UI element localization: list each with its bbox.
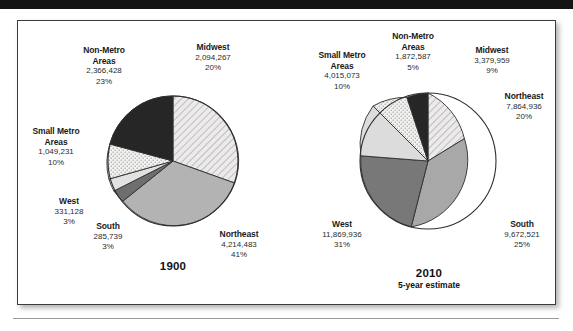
label-name-line1: Non-Metro (59, 45, 149, 56)
label-value: 2,094,267 (168, 53, 258, 64)
label-percent: 20% (168, 63, 258, 74)
label-name: Northeast (194, 229, 284, 240)
label-name-line1: Non-Metro (373, 31, 453, 42)
caption-year: 2010 (383, 267, 475, 279)
label-name-line2: Areas (298, 61, 386, 72)
label-value: 7,864,936 (480, 102, 568, 113)
label-value: 285,739 (68, 232, 148, 243)
label-1900-northeast: Northeast 4,214,483 41% (194, 229, 284, 261)
label-name: Midwest (448, 45, 536, 56)
label-2010-west: West 11,869,936 31% (296, 219, 388, 251)
caption-1900: 1900 (128, 260, 218, 272)
label-name: Northeast (480, 91, 568, 102)
label-value: 4,015,073 (298, 71, 386, 82)
label-1900-small-metro: Small Metro Areas 1,049,231 10% (11, 126, 101, 168)
pie-2010 (360, 93, 496, 229)
label-percent: 9% (448, 66, 536, 77)
label-percent: 31% (296, 240, 388, 251)
label-name: West (29, 196, 109, 207)
label-1900-midwest: Midwest 2,094,267 20% (168, 42, 258, 74)
label-percent: 10% (298, 82, 386, 93)
pie-1900 (107, 96, 239, 226)
label-value: 11,869,936 (296, 230, 388, 241)
label-percent: 3% (68, 242, 148, 253)
label-value: 3,379,959 (448, 56, 536, 67)
page-top-black-bar (0, 0, 573, 9)
label-value: 9,672,521 (478, 230, 566, 241)
label-name: South (68, 221, 148, 232)
label-name: Midwest (168, 42, 258, 53)
label-name: West (296, 219, 388, 230)
page-bottom-rule (13, 318, 559, 319)
label-name: South (478, 219, 566, 230)
figure-container: Midwest 2,094,267 20% Non-Metro Areas 2,… (17, 20, 556, 305)
label-percent: 10% (11, 158, 101, 169)
label-percent: 25% (478, 240, 566, 251)
label-name-line2: Areas (59, 56, 149, 67)
label-1900-south: South 285,739 3% (68, 221, 148, 253)
label-name-line1: Small Metro (11, 126, 101, 137)
label-2010-small-metro: Small Metro Areas 4,015,073 10% (298, 50, 386, 92)
label-2010-south: South 9,672,521 25% (478, 219, 566, 251)
label-percent: 41% (194, 250, 284, 261)
caption-2010: 2010 5-year estimate (383, 267, 475, 290)
label-percent: 20% (480, 112, 568, 123)
label-name-line1: Small Metro (298, 50, 386, 61)
label-name-line2: Areas (11, 137, 101, 148)
caption-subtitle: 5-year estimate (383, 280, 475, 290)
label-2010-midwest: Midwest 3,379,959 9% (448, 45, 536, 77)
caption-year: 1900 (128, 260, 218, 272)
label-value: 4,214,483 (194, 240, 284, 251)
label-percent: 23% (59, 77, 149, 88)
label-value: 2,366,428 (59, 66, 149, 77)
label-2010-northeast: Northeast 7,864,936 20% (480, 91, 568, 123)
label-1900-non-metro: Non-Metro Areas 2,366,428 23% (59, 45, 149, 87)
label-value: 1,049,231 (11, 147, 101, 158)
label-value: 331,128 (29, 207, 109, 218)
